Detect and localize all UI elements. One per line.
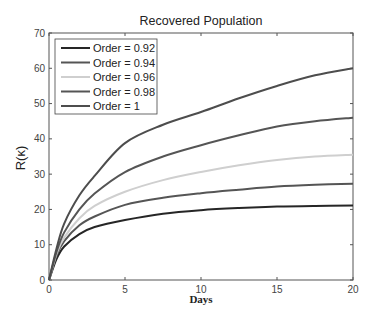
x-tick-label: 0 [46,284,52,295]
chart-title: Recovered Population [140,14,263,28]
y-tick-label: 60 [34,63,46,74]
x-axis-label: Days [189,293,213,305]
y-tick-label: 20 [34,204,46,215]
y-axis-label: R(κ) [13,146,28,171]
y-tick-label: 70 [34,28,46,39]
legend-label-3: Order = 0.98 [93,86,155,98]
x-tick-label: 15 [271,284,283,295]
legend-label-2: Order = 0.96 [93,71,155,83]
x-tick-label: 5 [122,284,128,295]
y-tick-label: 50 [34,98,46,109]
y-tick-label: 40 [34,133,46,144]
y-tick-label: 30 [34,169,46,180]
legend-label-4: Order = 1 [93,100,140,112]
legend-label-0: Order = 0.92 [93,42,155,54]
y-tick-label: 10 [34,239,46,250]
y-tick-label: 0 [39,275,45,286]
legend-label-1: Order = 0.94 [93,57,155,69]
chart: Recovered Population 0510152001020304050… [0,0,374,317]
legend: Order = 0.92Order = 0.94Order = 0.96Orde… [55,39,157,114]
x-tick-label: 20 [347,284,359,295]
